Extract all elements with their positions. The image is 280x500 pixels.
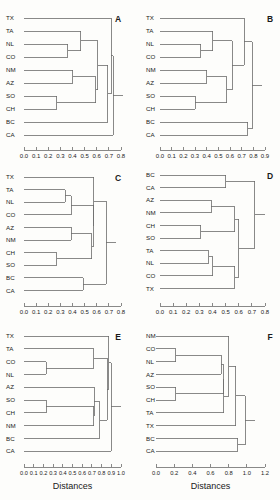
axis-tick-label: 0.0 bbox=[152, 470, 160, 476]
axis-tick-label: 0.9 bbox=[107, 470, 115, 476]
axis-tick-label: 0.2 bbox=[182, 309, 191, 315]
axis-tick-label: 0.8 bbox=[117, 153, 126, 159]
axis-tick-label: 0.6 bbox=[235, 309, 244, 315]
axis-tick-label: 0.6 bbox=[206, 470, 214, 476]
leaf-label-SO: SO bbox=[6, 92, 15, 99]
leaf-label-NL: NL bbox=[146, 358, 154, 365]
leaf-label-SO: SO bbox=[6, 261, 15, 268]
leaf-label-CH: CH bbox=[146, 396, 155, 403]
axis-tick-label: 0.6 bbox=[93, 309, 102, 315]
leaf-label-CO: CO bbox=[6, 358, 15, 365]
leaf-label-SO: SO bbox=[146, 92, 155, 99]
leaf-label-TX: TX bbox=[6, 14, 14, 21]
leaf-label-NM: NM bbox=[146, 332, 156, 339]
axis-tick-label: 1.2 bbox=[261, 470, 269, 476]
panel-F: NMCONLAZSOCHTATXBCCA0.00.20.40.60.81.01.… bbox=[140, 320, 280, 500]
leaf-label-NL: NL bbox=[6, 371, 14, 378]
axis-tick-label: 0.8 bbox=[261, 309, 270, 315]
leaf-label-CA: CA bbox=[6, 447, 15, 454]
leaf-label-TX: TX bbox=[146, 14, 154, 21]
panel-letter-A: A bbox=[115, 14, 121, 24]
axis-tick-label: 0.2 bbox=[179, 153, 188, 159]
leaf-label-CA: CA bbox=[146, 184, 155, 191]
leaf-label-AZ: AZ bbox=[6, 79, 14, 86]
leaf-label-CA: CA bbox=[6, 131, 15, 138]
axis-tick-label: 0.8 bbox=[117, 309, 126, 315]
leaf-label-AZ: AZ bbox=[146, 371, 154, 378]
axis-tick-label: 0.1 bbox=[30, 470, 38, 476]
panel-E: TXTACONLAZSOCHNMBCCA0.00.10.20.30.40.50.… bbox=[0, 320, 140, 500]
axis-tick-label: 0.6 bbox=[78, 470, 86, 476]
leaf-label-TX: TX bbox=[6, 332, 14, 339]
panel-letter-B: B bbox=[267, 14, 273, 24]
axis-tick-label: 0.0 bbox=[156, 153, 165, 159]
panel-C: TXTANLCOAZNMCHSOBCCA0.00.10.20.30.40.50.… bbox=[0, 163, 140, 323]
axis-tick-label: 0.4 bbox=[68, 309, 77, 315]
leaf-label-TA: TA bbox=[6, 186, 14, 193]
leaf-label-CH: CH bbox=[6, 105, 15, 112]
axis-tick-label: 0.5 bbox=[214, 153, 223, 159]
panel-letter-E: E bbox=[115, 332, 121, 342]
leaf-label-TA: TA bbox=[6, 345, 14, 352]
axis-tick-label: 0.4 bbox=[188, 470, 197, 476]
axis-tick-label: 1.0 bbox=[243, 470, 251, 476]
axis-tick-label: 0.5 bbox=[80, 309, 89, 315]
axis-tick-label: 0.3 bbox=[49, 470, 57, 476]
leaf-label-BC: BC bbox=[6, 435, 15, 442]
axis-tick-label: 0.4 bbox=[208, 309, 217, 315]
axis-tick-label: 0.1 bbox=[32, 153, 41, 159]
leaf-label-TX: TX bbox=[146, 422, 154, 429]
leaf-label-TA: TA bbox=[146, 27, 154, 34]
leaf-label-CA: CA bbox=[146, 131, 155, 138]
leaf-label-NL: NL bbox=[146, 40, 154, 47]
leaf-label-NL: NL bbox=[6, 198, 14, 205]
leaf-label-CH: CH bbox=[6, 249, 15, 256]
leaf-label-TA: TA bbox=[146, 247, 154, 254]
panel-A: TXTANLCONMAZSOCHBCCA0.00.10.20.30.40.50.… bbox=[0, 0, 140, 168]
leaf-label-SO: SO bbox=[6, 396, 15, 403]
leaf-label-AZ: AZ bbox=[6, 224, 14, 231]
axis-tick-label: 0.2 bbox=[40, 470, 48, 476]
axis-tick-label: 0.9 bbox=[261, 153, 270, 159]
leaf-label-NL: NL bbox=[6, 40, 14, 47]
leaf-label-AZ: AZ bbox=[6, 383, 14, 390]
axis-title: Distances bbox=[191, 481, 231, 491]
axis-tick-label: 0.2 bbox=[44, 153, 53, 159]
axis-tick-label: 0.5 bbox=[69, 470, 77, 476]
panel-D: BCCAAZNMCHSOTANLCOTX0.00.10.20.30.40.50.… bbox=[140, 163, 280, 323]
axis-tick-label: 0.3 bbox=[195, 309, 204, 315]
axis-tick-label: 0.5 bbox=[221, 309, 230, 315]
axis-tick-label: 0.4 bbox=[68, 153, 77, 159]
axis-tick-label: 0.0 bbox=[20, 470, 28, 476]
dendrogram-figure: TXTANLCONMAZSOCHBCCA0.00.10.20.30.40.50.… bbox=[0, 0, 280, 500]
leaf-label-SO: SO bbox=[146, 383, 155, 390]
axis-tick-label: 0.1 bbox=[167, 153, 176, 159]
leaf-label-NM: NM bbox=[146, 66, 156, 73]
axis-tick-label: 0.0 bbox=[156, 309, 165, 315]
leaf-label-AZ: AZ bbox=[146, 79, 154, 86]
leaf-label-SO: SO bbox=[146, 234, 155, 241]
leaf-label-CA: CA bbox=[146, 447, 155, 454]
leaf-label-NM: NM bbox=[6, 66, 16, 73]
axis-tick-label: 0.4 bbox=[59, 470, 67, 476]
leaf-label-BC: BC bbox=[146, 171, 155, 178]
axis-tick-label: 0.2 bbox=[170, 470, 178, 476]
leaf-label-TX: TX bbox=[6, 173, 14, 180]
leaf-label-CH: CH bbox=[146, 222, 155, 229]
axis-tick-label: 0.3 bbox=[56, 309, 65, 315]
leaf-label-NL: NL bbox=[146, 259, 154, 266]
axis-tick-label: 0.7 bbox=[105, 153, 114, 159]
leaf-label-NM: NM bbox=[146, 209, 156, 216]
axis-tick-label: 0.2 bbox=[44, 309, 53, 315]
axis-tick-label: 0.4 bbox=[202, 153, 211, 159]
axis-title: Distances bbox=[53, 481, 93, 491]
leaf-label-NM: NM bbox=[6, 422, 16, 429]
axis-tick-label: 0.1 bbox=[32, 309, 41, 315]
panel-letter-F: F bbox=[267, 332, 272, 342]
leaf-label-CO: CO bbox=[146, 345, 155, 352]
axis-tick-label: 0.7 bbox=[105, 309, 114, 315]
axis-tick-label: 0.7 bbox=[248, 309, 257, 315]
leaf-label-NM: NM bbox=[6, 236, 16, 243]
leaf-label-BC: BC bbox=[6, 274, 15, 281]
axis-tick-label: 0.5 bbox=[80, 153, 89, 159]
